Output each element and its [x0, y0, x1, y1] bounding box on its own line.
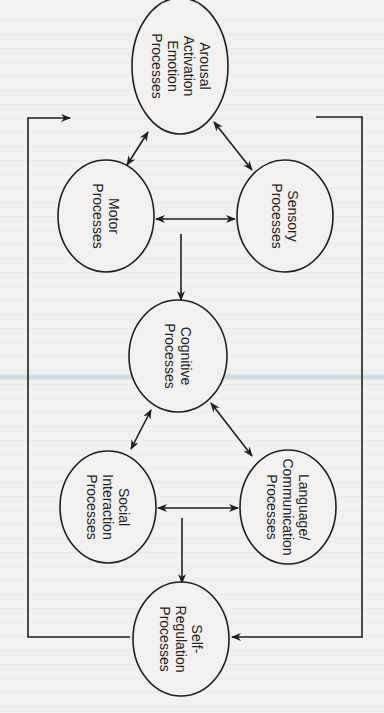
svg-text:Processes: Processes: [84, 474, 100, 539]
svg-text:Sensory: Sensory: [285, 190, 301, 241]
svg-text:Self-: Self-: [189, 625, 205, 654]
svg-text:Emotion: Emotion: [165, 40, 181, 91]
arrow-arousal-sensory: [214, 122, 252, 170]
label-cognitive: Cognitive Processes: [162, 323, 194, 388]
svg-text:Processes: Processes: [157, 606, 173, 671]
svg-text:Cognitive: Cognitive: [178, 327, 194, 386]
svg-text:Motor: Motor: [106, 198, 122, 234]
svg-text:Processes: Processes: [90, 183, 106, 248]
svg-text:Communication: Communication: [280, 458, 296, 555]
svg-text:Social: Social: [116, 488, 132, 526]
process-diagram: Arousal Activation Emotion Processes Mot…: [0, 0, 384, 713]
svg-text:Interaction: Interaction: [100, 474, 116, 539]
svg-text:Regulation: Regulation: [173, 606, 189, 673]
arrow-cognitive-social: [131, 410, 151, 449]
svg-text:Activation: Activation: [181, 36, 197, 97]
svg-text:Language/: Language/: [296, 474, 312, 540]
svg-text:Processes: Processes: [149, 33, 165, 98]
label-arousal: Arousal Activation Emotion Processes: [149, 33, 213, 98]
svg-text:Processes: Processes: [264, 474, 280, 539]
svg-text:Arousal: Arousal: [197, 42, 213, 89]
arrow-cognitive-language: [211, 403, 252, 456]
svg-text:Processes: Processes: [269, 183, 285, 248]
arrow-arousal-motor: [127, 132, 148, 165]
svg-text:Processes: Processes: [162, 323, 178, 388]
label-sensory: Sensory Processes: [269, 183, 301, 248]
